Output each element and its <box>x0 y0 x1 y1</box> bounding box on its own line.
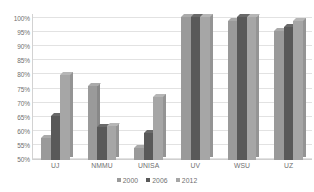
y-axis-tick-label: 70% <box>0 99 30 106</box>
bar-wsu-2006 <box>237 17 247 160</box>
bar-group-nmmu <box>88 14 117 160</box>
bar-group-uv <box>181 14 210 160</box>
bar-unisa-2006 <box>144 133 154 160</box>
legend-label: 2000 <box>123 177 139 184</box>
x-axis: UJNMMUUNISAUVWSUUZ <box>32 162 312 174</box>
bar-face <box>134 148 144 160</box>
legend-swatch-icon <box>176 178 180 182</box>
legend-item-2000[interactable]: 2000 <box>117 176 139 184</box>
legend-item-2006[interactable]: 2006 <box>146 176 168 184</box>
gridline <box>32 102 312 103</box>
gridline <box>32 45 312 46</box>
y-axis-line <box>32 14 33 160</box>
legend-item-2012[interactable]: 2012 <box>176 176 198 184</box>
y-axis-tick-label: 55% <box>0 141 30 148</box>
bar-uj-2006 <box>51 116 61 160</box>
y-axis: 100%95%90%85%80%75%70%65%60%55%50% <box>0 14 30 160</box>
gridline <box>32 59 312 60</box>
y-axis-tick-label: 95% <box>0 29 30 36</box>
bar-face <box>144 133 154 160</box>
gridline <box>32 130 312 131</box>
bar-side-3d <box>163 94 166 157</box>
y-axis-tick-label: 75% <box>0 85 30 92</box>
chart-legend: 200020062012 <box>0 176 314 184</box>
bar-uz-2012 <box>293 21 303 160</box>
bar-side-3d <box>70 72 73 157</box>
bar-face <box>107 126 117 160</box>
bar-wsu-2000 <box>228 21 238 160</box>
bar-group-unisa <box>134 14 163 160</box>
bar-face <box>153 97 163 160</box>
bar-face <box>60 75 70 160</box>
bar-uv-2012 <box>200 17 210 160</box>
bar-face <box>200 17 210 160</box>
y-axis-tick-label: 80% <box>0 71 30 78</box>
y-axis-tick-label: 60% <box>0 127 30 134</box>
bar-face <box>181 17 191 160</box>
bar-chart: 100%95%90%85%80%75%70%65%60%55%50% UJNMM… <box>0 0 314 192</box>
y-axis-tick-label: 85% <box>0 57 30 64</box>
gridline <box>32 88 312 89</box>
bar-face <box>191 17 201 160</box>
gridline <box>32 144 312 145</box>
bar-face <box>284 27 294 160</box>
x-axis-tick-label-uv: UV <box>172 162 219 169</box>
bar-face <box>51 116 61 160</box>
bar-face <box>97 127 107 160</box>
bar-side-3d <box>256 14 259 157</box>
legend-swatch-icon <box>146 178 150 182</box>
plot-area <box>32 14 312 160</box>
bar-face <box>88 86 98 160</box>
axis-baseline <box>32 159 312 160</box>
y-axis-tick-label: 65% <box>0 113 30 120</box>
bar-face <box>41 138 51 160</box>
x-axis-tick-label-nmmu: NMMU <box>79 162 126 169</box>
gridline <box>32 73 312 74</box>
bar-side-3d <box>210 14 213 157</box>
gridline <box>32 116 312 117</box>
bar-side-3d <box>116 123 119 157</box>
bar-unisa-2012 <box>153 97 163 160</box>
bar-uj-2000 <box>41 138 51 160</box>
bar-wsu-2012 <box>247 17 257 160</box>
bar-nmmu-2000 <box>88 86 98 160</box>
bar-uv-2006 <box>191 17 201 160</box>
gridline <box>32 31 312 32</box>
bar-face <box>228 21 238 160</box>
y-axis-tick-label: 50% <box>0 156 30 163</box>
legend-label: 2006 <box>152 177 168 184</box>
bar-group-wsu <box>228 14 257 160</box>
gridline <box>32 158 312 159</box>
x-axis-tick-label-uj: UJ <box>32 162 79 169</box>
bar-nmmu-2006 <box>97 127 107 160</box>
bar-uz-2006 <box>284 27 294 160</box>
bar-group-uz <box>274 14 303 160</box>
bar-side-3d <box>303 18 306 157</box>
bar-nmmu-2012 <box>107 126 117 160</box>
bar-uv-2000 <box>181 17 191 160</box>
bar-uz-2000 <box>274 31 284 160</box>
x-axis-tick-label-uz: UZ <box>265 162 312 169</box>
bar-unisa-2000 <box>134 148 144 160</box>
bar-face <box>274 31 284 160</box>
bar-face <box>293 21 303 160</box>
y-axis-tick-label: 100% <box>0 15 30 22</box>
y-axis-tick-label: 90% <box>0 43 30 50</box>
gridline <box>32 17 312 18</box>
legend-label: 2012 <box>182 177 198 184</box>
x-axis-tick-label-unisa: UNISA <box>125 162 172 169</box>
bar-group-uj <box>41 14 70 160</box>
legend-swatch-icon <box>117 178 121 182</box>
x-axis-tick-label-wsu: WSU <box>219 162 266 169</box>
bar-face <box>237 17 247 160</box>
bar-face <box>247 17 257 160</box>
bar-uj-2012 <box>60 75 70 160</box>
